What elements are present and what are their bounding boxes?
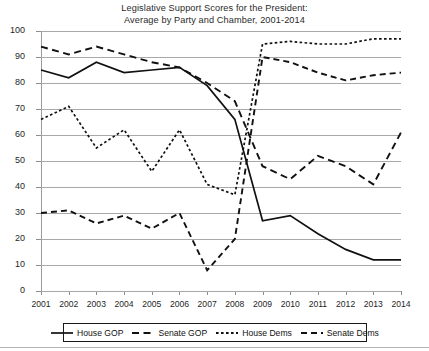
y-tick-label: 50 xyxy=(0,155,25,165)
legend-label: Senate GOP xyxy=(158,328,207,338)
chart-title: Legislative Support Scores for the Presi… xyxy=(0,3,429,26)
chart-title-line-1: Legislative Support Scores for the Presi… xyxy=(0,3,429,15)
legend-swatch-dotted xyxy=(301,329,323,337)
legend-item-senate-gop[interactable]: Senate GOP xyxy=(132,328,207,338)
y-tick-label: 10 xyxy=(0,259,25,269)
legend-item-house-gop[interactable]: House GOP xyxy=(51,328,123,338)
y-tick-label: 70 xyxy=(0,103,25,113)
series-layer xyxy=(41,31,401,291)
y-tick-label: 0 xyxy=(0,285,25,295)
x-tick-label: 2014 xyxy=(381,299,421,309)
series-line-senate-gop xyxy=(41,47,401,185)
chart-page: Legislative Support Scores for the Presi… xyxy=(0,0,429,351)
y-tick-label: 30 xyxy=(0,207,25,217)
legend-label: House Dems xyxy=(242,328,292,338)
chart-title-line-2: Average by Party and Chamber, 2001-2014 xyxy=(0,15,429,27)
y-tick-label: 40 xyxy=(0,181,25,191)
legend-swatch-dashed xyxy=(132,329,154,337)
x-tick-mark xyxy=(401,291,402,295)
y-tick-label: 100 xyxy=(0,25,25,35)
legend-label: Senate Dems xyxy=(327,328,379,338)
legend-item-house-dems[interactable]: House Dems xyxy=(216,328,292,338)
gridline-0 xyxy=(41,291,401,292)
y-tick-label: 90 xyxy=(0,51,25,61)
legend-swatch-solid xyxy=(51,329,73,337)
legend-label: House GOP xyxy=(77,328,123,338)
legend-swatch-dash-dot xyxy=(216,329,238,337)
y-tick-label: 60 xyxy=(0,129,25,139)
series-line-senate-dems xyxy=(41,57,401,270)
bottom-divider xyxy=(0,347,429,348)
chart-legend: House GOPSenate GOPHouse DemsSenate Dems xyxy=(63,323,367,342)
series-line-house-gop xyxy=(41,62,401,260)
legend-item-senate-dems[interactable]: Senate Dems xyxy=(301,328,379,338)
plot-area xyxy=(41,31,401,291)
y-tick-label: 20 xyxy=(0,233,25,243)
y-tick-label: 80 xyxy=(0,77,25,87)
